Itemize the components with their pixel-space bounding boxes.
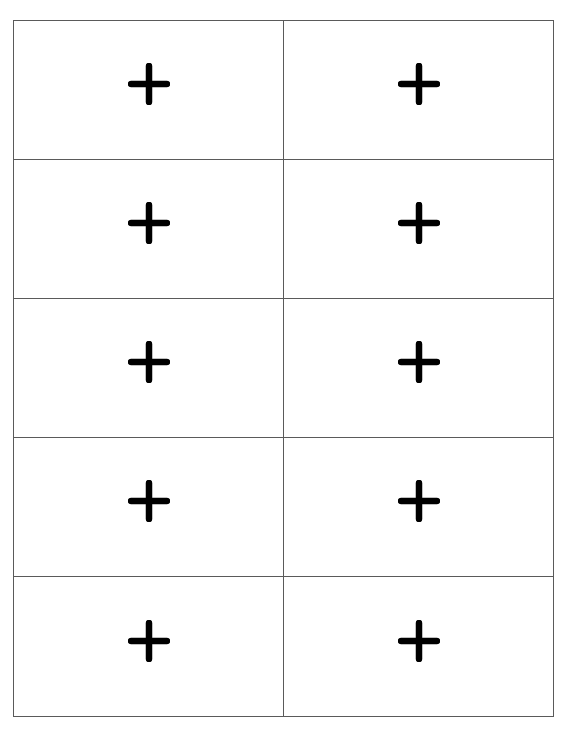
plus-icon xyxy=(398,480,440,522)
grid-cell-r4-c1[interactable] xyxy=(14,438,284,577)
plus-icon xyxy=(398,202,440,244)
grid-cell-r5-c2[interactable] xyxy=(284,577,553,716)
grid-cell-r3-c2[interactable] xyxy=(284,299,553,438)
card-grid xyxy=(13,20,554,717)
grid-cell-r2-c2[interactable] xyxy=(284,160,553,299)
grid-cell-r4-c2[interactable] xyxy=(284,438,553,577)
plus-icon xyxy=(128,202,170,244)
plus-icon xyxy=(398,620,440,662)
plus-icon xyxy=(398,63,440,105)
plus-icon xyxy=(128,63,170,105)
plus-icon xyxy=(398,341,440,383)
plus-icon xyxy=(128,480,170,522)
clipped-header-text xyxy=(0,0,565,6)
grid-cell-r2-c1[interactable] xyxy=(14,160,284,299)
grid-cell-r5-c1[interactable] xyxy=(14,577,284,716)
grid-cell-r3-c1[interactable] xyxy=(14,299,284,438)
plus-icon xyxy=(128,620,170,662)
plus-icon xyxy=(128,341,170,383)
grid-cell-r1-c2[interactable] xyxy=(284,21,553,160)
grid-cell-r1-c1[interactable] xyxy=(14,21,284,160)
